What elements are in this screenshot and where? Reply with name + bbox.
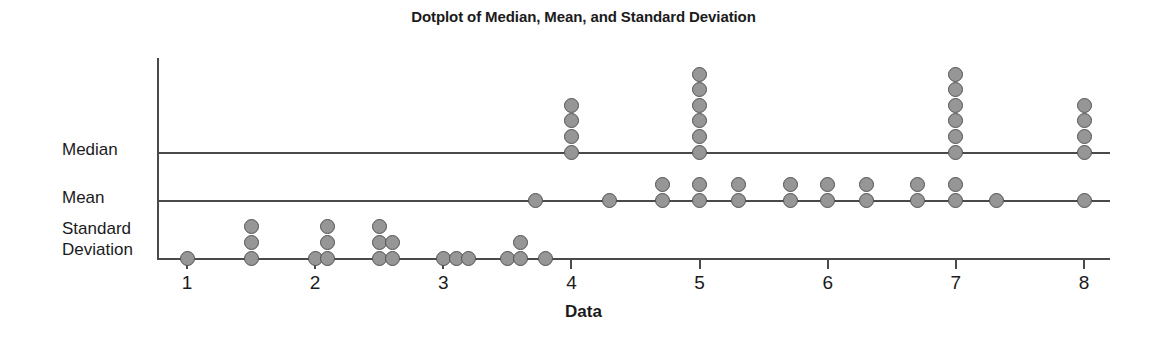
data-dot [859,193,874,208]
data-dot [1077,129,1092,144]
data-dot [948,113,963,128]
x-tick-label-2: 2 [295,272,335,294]
row-label-median: Median [62,139,150,160]
x-tick-label-7: 7 [936,272,976,294]
data-dot [655,177,670,192]
x-tick-5 [699,260,701,269]
data-dot [948,145,963,160]
x-tick-label-3: 3 [423,272,463,294]
data-dot [820,177,835,192]
data-dot [948,129,963,144]
data-dot [692,129,707,144]
data-dot [989,193,1004,208]
data-dot [731,177,746,192]
data-dot [513,251,528,266]
data-dot [320,235,335,250]
data-dot [244,219,259,234]
data-dot [244,251,259,266]
data-dot [783,193,798,208]
x-tick-label-5: 5 [680,272,720,294]
data-dot [655,193,670,208]
data-dot [948,82,963,97]
data-dot [180,251,195,266]
data-dot [692,177,707,192]
data-dot [692,82,707,97]
data-dot [692,98,707,113]
data-dot [528,193,543,208]
data-dot [948,193,963,208]
data-dot [783,177,798,192]
data-dot [948,177,963,192]
x-tick-6 [827,260,829,269]
data-dot [948,67,963,82]
x-tick-label-6: 6 [808,272,848,294]
data-dot [859,177,874,192]
data-dot [820,193,835,208]
row-baseline-standard-deviation [157,258,1110,260]
data-dot [1077,113,1092,128]
data-dot [1077,145,1092,160]
x-tick-label-1: 1 [167,272,207,294]
data-dot [320,219,335,234]
chart-page: Dotplot of Median, Mean, and Standard De… [0,0,1167,351]
data-dot [692,67,707,82]
data-dot [910,177,925,192]
data-dot [461,251,476,266]
data-dot [513,235,528,250]
dotplot-plot-area: MedianMeanStandard Deviation12345678 [0,0,1167,351]
data-dot [692,145,707,160]
data-dot [385,251,400,266]
data-dot [538,251,553,266]
data-dot [564,129,579,144]
data-dot [385,235,400,250]
data-dot [564,98,579,113]
row-baseline-median [157,152,1110,154]
x-tick-7 [955,260,957,269]
data-dot [1077,193,1092,208]
x-tick-label-8: 8 [1064,272,1104,294]
data-dot [602,193,617,208]
data-dot [564,145,579,160]
data-dot [564,113,579,128]
x-axis-label: Data [0,302,1167,322]
data-dot [1077,98,1092,113]
data-dot [731,193,746,208]
row-label-standard-deviation: Standard Deviation [62,218,150,260]
data-dot [320,251,335,266]
data-dot [692,193,707,208]
data-dot [692,113,707,128]
x-tick-4 [570,260,572,269]
data-dot [948,98,963,113]
row-baseline-mean [157,200,1110,202]
data-dot [372,219,387,234]
y-axis-spine [157,58,159,260]
x-tick-8 [1083,260,1085,269]
data-dot [910,193,925,208]
row-label-mean: Mean [62,187,150,208]
data-dot [244,235,259,250]
x-tick-label-4: 4 [551,272,591,294]
